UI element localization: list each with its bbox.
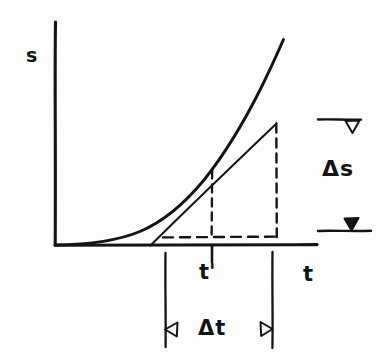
delta-s-bottom-arrowhead-icon: [345, 218, 359, 231]
arrowhead-right-icon: [261, 322, 273, 336]
dashed-vertical-at-t-prime-plus-delta-t: [276, 124, 277, 238]
dashed-vertical-at-t-prime: [212, 171, 213, 238]
x-axis-label: t: [303, 264, 313, 285]
t-prime-label: t': [199, 262, 215, 283]
arrowhead-left-icon: [165, 323, 178, 337]
x-axis: [55, 245, 317, 246]
delta-s-top-arrowhead-icon: [346, 121, 360, 134]
delta-t-label: Δt: [198, 318, 226, 339]
secant-tangent-line: [151, 124, 277, 246]
diagram-svg: [0, 0, 383, 363]
delta-s-label: Δs: [322, 158, 354, 180]
dashed-horizontal-baseline: [163, 237, 277, 238]
y-axis-label: s: [26, 46, 37, 65]
displacement-curve: [56, 40, 284, 246]
diagram-canvas: s t t' Δs Δt: [0, 0, 383, 363]
